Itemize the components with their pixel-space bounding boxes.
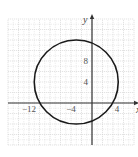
y-tick-label: 8 — [84, 56, 89, 66]
y-tick-label: 4 — [84, 77, 89, 87]
x-axis-label: x — [135, 104, 138, 115]
x-tick-label: 4 — [115, 104, 120, 114]
x-tick-label: −4 — [66, 104, 76, 114]
coordinate-plot: −12−4448 x y — [0, 0, 138, 157]
y-axis-arrow-icon — [90, 14, 94, 19]
x-tick-label: −12 — [22, 104, 36, 114]
y-axis-label: y — [82, 14, 88, 25]
grid-lines — [8, 19, 134, 145]
